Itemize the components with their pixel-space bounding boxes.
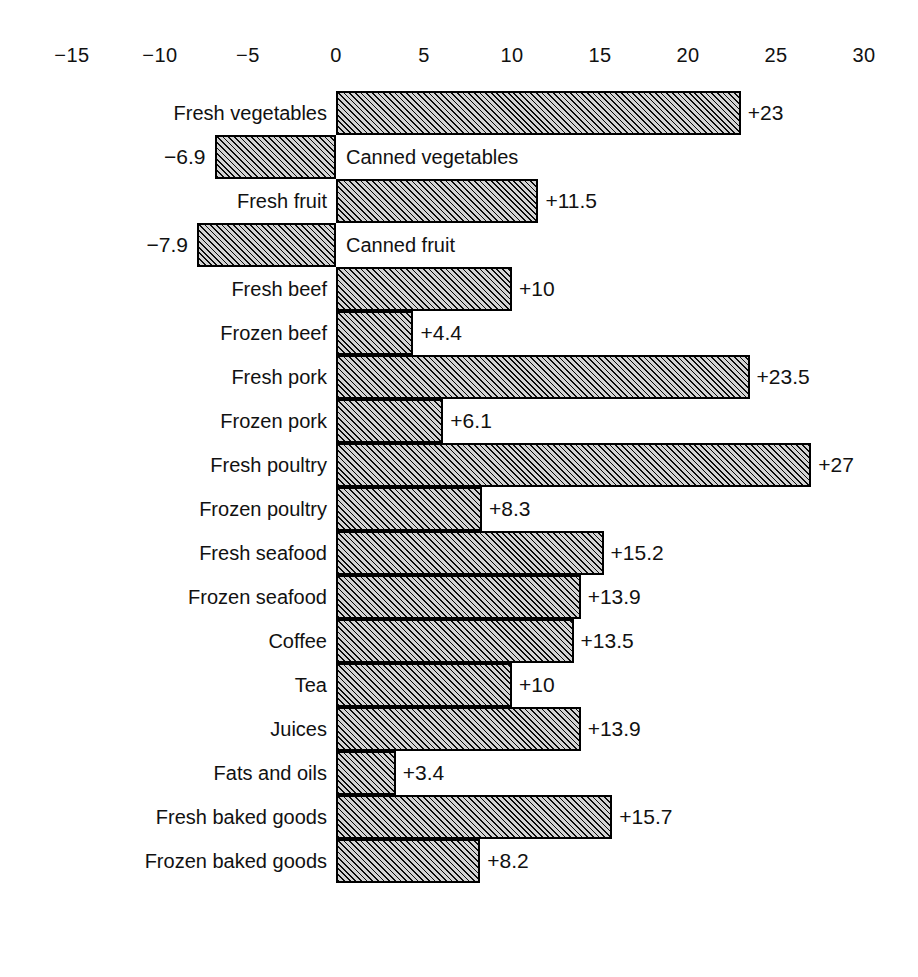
- category-label: Frozen beef: [220, 322, 327, 345]
- bar-row[interactable]: Frozen poultry+8.3: [0, 487, 918, 531]
- bar[interactable]: [197, 223, 336, 267]
- category-label: Frozen pork: [220, 410, 327, 433]
- bar-value-label: +10: [512, 277, 555, 301]
- bar-row[interactable]: Fats and oils+3.4: [0, 751, 918, 795]
- category-label: Fresh vegetables: [174, 102, 327, 125]
- bar[interactable]: [336, 267, 512, 311]
- bar-row[interactable]: Canned fruit−7.9: [0, 223, 918, 267]
- bar[interactable]: [336, 443, 811, 487]
- bar[interactable]: [336, 575, 581, 619]
- bar-row[interactable]: Coffee+13.5: [0, 619, 918, 663]
- bar[interactable]: [336, 487, 482, 531]
- bar-row[interactable]: Canned vegetables−6.9: [0, 135, 918, 179]
- bar[interactable]: [336, 91, 741, 135]
- bar[interactable]: [215, 135, 336, 179]
- bar-row[interactable]: Frozen baked goods+8.2: [0, 839, 918, 883]
- bar-row[interactable]: Tea+10: [0, 663, 918, 707]
- category-label: Juices: [270, 718, 327, 741]
- category-label: Fresh poultry: [210, 454, 327, 477]
- bar[interactable]: [336, 707, 581, 751]
- bar-row[interactable]: Fresh fruit+11.5: [0, 179, 918, 223]
- bar[interactable]: [336, 751, 396, 795]
- category-label: Canned vegetables: [336, 146, 524, 169]
- bar-value-label: +13.5: [574, 629, 634, 653]
- category-label: Fresh seafood: [199, 542, 327, 565]
- bar[interactable]: [336, 619, 574, 663]
- bar-row[interactable]: Fresh beef+10: [0, 267, 918, 311]
- bar-row[interactable]: Frozen beef+4.4: [0, 311, 918, 355]
- bar-value-label: +6.1: [443, 409, 491, 433]
- bar-value-label: +11.5: [538, 189, 597, 213]
- bar[interactable]: [336, 839, 480, 883]
- category-label: Tea: [295, 674, 327, 697]
- bar-value-label: +15.7: [612, 805, 672, 829]
- bar-value-label: +23.5: [750, 365, 810, 389]
- bar[interactable]: [336, 311, 413, 355]
- bar-value-label: +15.2: [604, 541, 664, 565]
- bar-row[interactable]: Fresh baked goods+15.7: [0, 795, 918, 839]
- bar[interactable]: [336, 531, 604, 575]
- bar-value-label: +8.2: [480, 849, 528, 873]
- bar-value-label: +8.3: [482, 497, 530, 521]
- plot-area: Fresh vegetables+23Canned vegetables−6.9…: [0, 0, 918, 977]
- bar-value-label: +13.9: [581, 585, 641, 609]
- bar-value-label: −7.9: [147, 233, 197, 257]
- category-label: Frozen seafood: [188, 586, 327, 609]
- category-label: Fresh pork: [231, 366, 327, 389]
- category-label: Fresh beef: [231, 278, 327, 301]
- category-label: Fresh fruit: [237, 190, 327, 213]
- bar[interactable]: [336, 663, 512, 707]
- bar-value-label: +23: [741, 101, 784, 125]
- bar-value-label: +27: [811, 453, 854, 477]
- bar-value-label: +4.4: [413, 321, 461, 345]
- bar-chart: −15−10−5051015202530 Fresh vegetables+23…: [0, 0, 918, 977]
- bar[interactable]: [336, 355, 750, 399]
- category-label: Fresh baked goods: [156, 806, 327, 829]
- bar-value-label: +13.9: [581, 717, 641, 741]
- bar-row[interactable]: Juices+13.9: [0, 707, 918, 751]
- category-label: Canned fruit: [336, 234, 461, 257]
- bar-value-label: +3.4: [396, 761, 444, 785]
- category-label: Coffee: [268, 630, 327, 653]
- bar-row[interactable]: Fresh poultry+27: [0, 443, 918, 487]
- bar-row[interactable]: Fresh vegetables+23: [0, 91, 918, 135]
- category-label: Fats and oils: [214, 762, 327, 785]
- bar[interactable]: [336, 399, 443, 443]
- bar-value-label: +10: [512, 673, 555, 697]
- bar-row[interactable]: Frozen seafood+13.9: [0, 575, 918, 619]
- bar-row[interactable]: Frozen pork+6.1: [0, 399, 918, 443]
- category-label: Frozen baked goods: [145, 850, 327, 873]
- bar-row[interactable]: Fresh seafood+15.2: [0, 531, 918, 575]
- bar[interactable]: [336, 179, 538, 223]
- category-label: Frozen poultry: [199, 498, 327, 521]
- bar-row[interactable]: Fresh pork+23.5: [0, 355, 918, 399]
- bar-value-label: −6.9: [164, 145, 214, 169]
- bar[interactable]: [336, 795, 612, 839]
